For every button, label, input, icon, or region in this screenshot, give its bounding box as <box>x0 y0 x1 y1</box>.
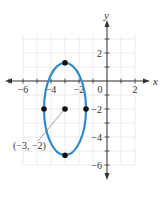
y-axis <box>105 20 110 180</box>
point-annotation: (−3, −2) <box>13 140 46 152</box>
y-tick-label: −4 <box>91 132 102 143</box>
y-axis-label: y <box>103 9 109 21</box>
y-tick-label: −6 <box>91 160 102 171</box>
data-point <box>62 106 68 112</box>
data-point <box>62 152 68 158</box>
ellipse-graph: −6−4−2022−2−4−6 x y (−3, −2) <box>0 0 165 203</box>
x-tick-label: 0 <box>98 84 103 95</box>
x-axis-left-arrow-icon <box>5 79 12 84</box>
annotation-leader <box>38 111 63 141</box>
data-point <box>41 106 47 112</box>
y-tick-label: 2 <box>97 48 102 59</box>
data-point <box>62 60 68 66</box>
x-tick-label: −6 <box>18 84 29 95</box>
x-axis <box>5 79 150 84</box>
y-axis-down-arrow-icon <box>105 173 110 180</box>
x-tick-label: 2 <box>133 84 138 95</box>
x-axis-label: x <box>152 75 158 87</box>
x-axis-right-arrow-icon <box>143 79 150 84</box>
data-point <box>83 106 89 112</box>
y-tick-label: −2 <box>91 104 102 115</box>
y-axis-up-arrow-icon <box>105 20 110 27</box>
